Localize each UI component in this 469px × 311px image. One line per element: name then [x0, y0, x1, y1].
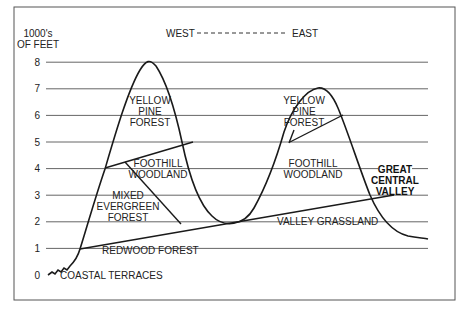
- axis-unit-line1: 1000's: [23, 28, 52, 39]
- svg-text:YELLOW: YELLOW: [283, 95, 325, 106]
- tick-label-8: 8: [34, 57, 40, 68]
- tick-label-2: 2: [34, 216, 40, 227]
- svg-text:CENTRAL: CENTRAL: [371, 175, 419, 186]
- svg-text:FOREST: FOREST: [108, 212, 149, 223]
- great-central-valley-label: GREAT CENTRAL VALLEY: [371, 163, 419, 197]
- tick-label-1: 1: [34, 243, 40, 254]
- zone-foothill-west: FOOTHILL WOODLAND: [129, 158, 188, 180]
- zone-foothill-east: FOOTHILL WOODLAND: [284, 158, 343, 180]
- east-label: EAST: [292, 28, 318, 39]
- svg-text:PINE: PINE: [292, 106, 316, 117]
- svg-text:MIXED: MIXED: [112, 190, 144, 201]
- tick-label-7: 7: [34, 83, 40, 94]
- svg-text:WOODLAND: WOODLAND: [129, 169, 188, 180]
- svg-text:YELLOW: YELLOW: [129, 95, 171, 106]
- tick-label-0: 0: [34, 270, 40, 281]
- zone-redwood-forest: REDWOOD FOREST: [102, 245, 199, 256]
- axis-unit-line2: OF FEET: [17, 39, 59, 50]
- svg-text:FOREST: FOREST: [284, 117, 325, 128]
- svg-text:FOOTHILL: FOOTHILL: [289, 158, 338, 169]
- zone-valley-grassland: VALLEY GRASSLAND: [277, 216, 378, 227]
- svg-text:GREAT: GREAT: [378, 164, 412, 175]
- zone-coastal-terraces: COASTAL TERRACES: [60, 270, 163, 281]
- tick-label-4: 4: [34, 163, 40, 174]
- svg-text:WOODLAND: WOODLAND: [284, 169, 343, 180]
- zone-yellow-pine-east: YELLOW PINE FOREST: [283, 95, 325, 128]
- vegetation-zone-diagram: 1000's OF FEET 012345678 WEST EAST YELLO…: [0, 0, 469, 311]
- svg-text:FOREST: FOREST: [130, 117, 171, 128]
- west-label: WEST: [166, 28, 195, 39]
- tick-label-5: 5: [34, 137, 40, 148]
- elevation-tick-labels: 012345678: [34, 57, 40, 281]
- svg-text:FOOTHILL: FOOTHILL: [134, 158, 183, 169]
- tick-label-6: 6: [34, 110, 40, 121]
- svg-text:VALLEY: VALLEY: [376, 186, 415, 197]
- tick-label-3: 3: [34, 190, 40, 201]
- zone-yellow-pine-west: YELLOW PINE FOREST: [129, 95, 171, 128]
- svg-text:PINE: PINE: [138, 106, 162, 117]
- diagram-frame: [14, 7, 455, 300]
- svg-text:EVERGREEN: EVERGREEN: [97, 201, 160, 212]
